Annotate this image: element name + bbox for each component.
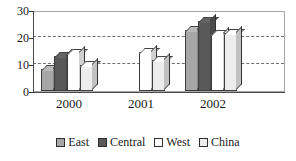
bar-group: [41, 10, 99, 91]
y-axis-tick-label: 20: [1, 32, 29, 44]
legend-label: West: [166, 136, 190, 148]
bar: [198, 21, 211, 91]
legend-label: China: [211, 136, 240, 148]
y-axis-tick-label: 30: [1, 5, 29, 17]
legend-item[interactable]: China: [199, 136, 240, 148]
bar: [80, 65, 93, 91]
x-axis-tick-label: 2002: [183, 96, 243, 112]
bar: [152, 60, 165, 91]
bar: [224, 33, 237, 91]
legend-swatch-icon: [199, 138, 208, 147]
legend-swatch-icon: [56, 138, 65, 147]
bar: [54, 56, 67, 91]
bar-group: [185, 10, 243, 91]
legend-item[interactable]: Central: [98, 136, 145, 148]
legend-item[interactable]: East: [56, 136, 89, 148]
bar: [185, 30, 198, 91]
y-axis-tick-label: 10: [1, 59, 29, 71]
bar: [139, 52, 152, 91]
plot-wrapper: 0102030 200020012002: [0, 0, 296, 120]
legend-item[interactable]: West: [154, 136, 190, 148]
bar: [67, 53, 80, 91]
bar-chart-figure: 0102030 200020012002 EastCentralWestChin…: [0, 0, 296, 161]
bar-group: [113, 10, 171, 91]
legend-swatch-icon: [98, 138, 107, 147]
x-axis-tick-label: 2001: [111, 96, 171, 112]
x-axis-tick-labels: 200020012002: [0, 96, 296, 116]
bar: [41, 69, 54, 91]
legend-label: East: [68, 136, 89, 148]
y-axis-line: [33, 11, 34, 93]
legend-swatch-icon: [154, 138, 163, 147]
x-axis-tick-label: 2000: [39, 96, 99, 112]
x-axis-line: [33, 92, 285, 93]
chart-legend: EastCentralWestChina: [0, 131, 296, 153]
plot-area: [33, 11, 285, 92]
legend-label: Central: [110, 136, 145, 148]
bar: [211, 34, 224, 91]
